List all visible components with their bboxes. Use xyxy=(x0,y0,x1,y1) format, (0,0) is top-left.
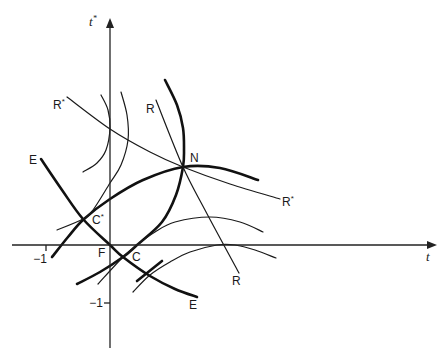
label-curve-r-star-right: R* xyxy=(282,194,294,209)
label-point-f: F xyxy=(98,246,105,260)
x-axis-arrow-icon xyxy=(427,241,437,249)
label-superscript: * xyxy=(62,97,65,106)
label-text: R xyxy=(282,195,291,209)
label-curve-r-star-left: R* xyxy=(53,97,65,112)
label-text: R xyxy=(53,98,62,112)
label-text: R xyxy=(146,102,155,116)
label-point-n: N xyxy=(190,151,199,165)
curve-r-star xyxy=(67,97,280,199)
label-curve-e-left: E xyxy=(29,153,37,167)
curve-r xyxy=(156,100,239,273)
label-curve-r-top: R xyxy=(146,102,155,116)
y-axis-title-sup: * xyxy=(93,14,97,23)
label-curve-r-bottom: R xyxy=(232,274,241,288)
diagram-canvas: −1−1tt* NC*CFR*R*RREE xyxy=(0,0,446,362)
label-point-c: C xyxy=(132,250,141,264)
axes-layer: −1−1tt* xyxy=(12,14,437,348)
x-axis-title: t xyxy=(426,249,430,264)
label-text: C xyxy=(92,213,101,227)
curve-n-c xyxy=(77,80,184,284)
label-text: N xyxy=(190,151,199,165)
label-superscript: * xyxy=(101,212,104,221)
x-axis-tick-label: −1 xyxy=(33,252,47,266)
label-point-c-star: C* xyxy=(92,212,104,227)
label-superscript: * xyxy=(291,194,294,203)
y-axis-arrow-icon xyxy=(106,18,114,28)
arc-upper-left-2 xyxy=(57,92,128,230)
curves-layer xyxy=(41,80,280,297)
y-axis-tick-label: −1 xyxy=(89,296,103,310)
curve-c-star-n xyxy=(52,166,258,257)
label-text: C xyxy=(132,250,141,264)
y-axis-title: t* xyxy=(89,14,97,29)
label-text: R xyxy=(232,274,241,288)
arc-upper-left-1 xyxy=(83,95,110,172)
labels-layer: NC*CFR*R*RREE xyxy=(29,97,294,312)
curve-e xyxy=(41,159,197,297)
label-text: F xyxy=(98,246,105,260)
label-text: E xyxy=(189,298,197,312)
label-curve-e-right: E xyxy=(189,298,197,312)
label-text: E xyxy=(29,153,37,167)
